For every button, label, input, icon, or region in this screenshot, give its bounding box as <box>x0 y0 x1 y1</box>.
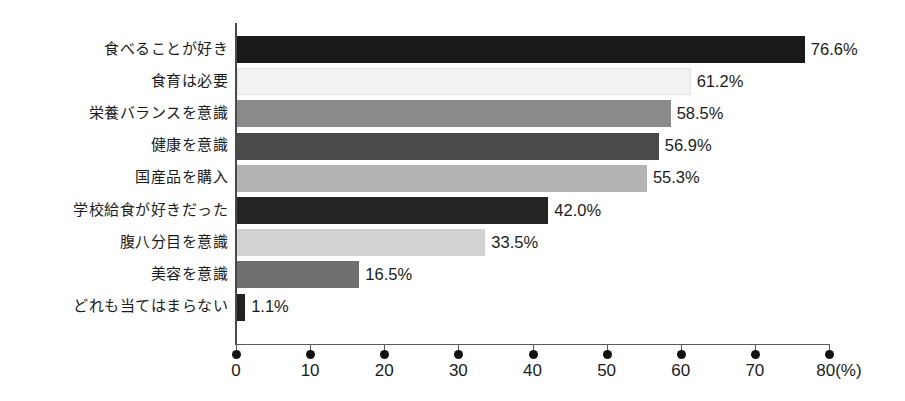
x-tick-label: 70 <box>745 362 764 379</box>
x-tick-dot <box>751 350 760 359</box>
bar <box>237 165 647 192</box>
category-label: 腹八分目を意識 <box>120 235 229 250</box>
bar <box>237 197 548 224</box>
bar <box>237 229 485 256</box>
x-tick-label: 40 <box>523 362 542 379</box>
bar-value-label: 16.5% <box>365 266 412 283</box>
bar <box>237 133 659 160</box>
x-tick-label: 50 <box>597 362 616 379</box>
x-tick-dot <box>306 350 315 359</box>
bar-value-label: 55.3% <box>653 169 700 186</box>
bar-value-label: 42.0% <box>554 202 601 219</box>
bar-value-label: 58.5% <box>677 105 724 122</box>
x-tick-label: 10 <box>301 362 320 379</box>
x-tick-label: 60 <box>671 362 690 379</box>
category-label: 学校給食が好きだった <box>73 203 228 218</box>
bar <box>237 68 691 95</box>
bar <box>237 261 359 288</box>
bar-value-label: 33.5% <box>491 234 538 251</box>
category-label: 栄養バランスを意識 <box>89 106 229 121</box>
category-label: 食育は必要 <box>151 74 229 89</box>
category-label: 美容を意識 <box>151 267 229 282</box>
bar-value-label: 61.2% <box>697 73 744 90</box>
category-label: 健康を意識 <box>151 138 229 153</box>
x-tick-label: 20 <box>375 362 394 379</box>
x-tick-label: 0 <box>231 362 240 379</box>
x-tick-dot <box>677 350 686 359</box>
x-tick-dot <box>380 350 389 359</box>
bar-chart: 食べることが好き食育は必要栄養バランスを意識健康を意識国産品を購入学校給食が好き… <box>0 0 905 401</box>
x-tick-dot <box>529 350 538 359</box>
y-axis-line <box>235 23 237 345</box>
bar <box>237 100 671 127</box>
x-tick-label: 80(%) <box>816 362 861 379</box>
x-tick-dot <box>232 350 241 359</box>
category-label: 国産品を購入 <box>135 170 228 185</box>
x-tick-dot <box>825 350 834 359</box>
x-tick-label: 30 <box>449 362 468 379</box>
bar-value-label: 76.6% <box>811 41 858 58</box>
x-tick-dot <box>454 350 463 359</box>
bar-value-label: 56.9% <box>665 137 712 154</box>
category-label: 食べることが好き <box>104 42 228 57</box>
bar <box>237 294 245 321</box>
category-label: どれも当てはまらない <box>73 299 228 314</box>
bar <box>237 36 805 63</box>
bar-value-label: 1.1% <box>251 298 289 315</box>
x-tick-dot <box>603 350 612 359</box>
